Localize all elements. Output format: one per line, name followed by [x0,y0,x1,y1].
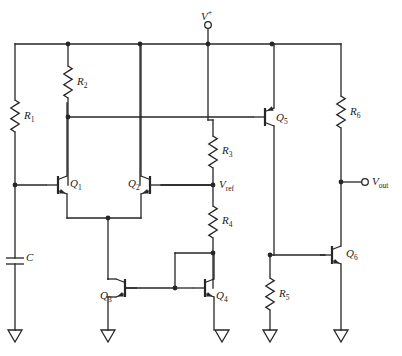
ground-symbol-r5 [263,330,277,342]
node-label-vref: Vref [219,179,234,193]
resistor-label-r5: R5 [279,288,289,302]
supply-terminal [205,22,212,29]
junction-dot [339,180,344,185]
capacitor-label-c: C [26,252,33,263]
junction-dot [206,42,211,47]
resistor-label-r1: R1 [24,110,34,124]
transistor-label-q2: Q2 [128,178,140,192]
resistor-r2 [64,66,72,98]
resistor-label-r4: R4 [222,215,232,229]
resistor-r1 [11,100,19,132]
terminal-label-vout: Vout [372,176,388,190]
q4-arrow [206,292,213,297]
circuit-diagram: R1R2R3R4R5R6CQ1Q2Q3Q4Q5Q6VrefV+Vout [0,0,402,356]
q6-collector-slant [332,246,341,250]
resistor-label-r6: R6 [350,106,360,120]
junction-dot [211,183,216,188]
transistor-label-q1: Q1 [70,178,82,192]
transistor-label-q4: Q4 [216,290,228,304]
q2-collector-slant [141,176,150,180]
ground-symbol-q3 [101,330,115,342]
junction-dot [138,42,143,47]
q6-arrow [333,259,340,264]
q3-collector-slant [116,279,125,283]
resistor-r5 [266,278,274,310]
component-group [6,22,368,342]
resistor-r4 [209,206,217,238]
resistor-label-r2: R2 [77,76,87,90]
terminal-label-vplus: V+ [201,9,212,22]
junction-dot [173,286,178,291]
resistor-label-r3: R3 [222,145,232,159]
q5-collector-slant [265,123,274,127]
q1-collector-slant [58,176,67,180]
resistor-r6 [337,96,345,128]
wire-group [15,29,361,330]
junction-dot [66,42,71,47]
schematic-canvas [0,0,402,356]
ground-symbol-c [8,330,22,342]
ground-symbol-q4 [215,330,229,342]
junction-dot [106,216,111,221]
q1-arrow [59,189,66,194]
junction-dot [13,183,18,188]
transistor-label-q5: Q5 [276,112,288,126]
junction-dot [268,253,273,258]
q3-arrow [117,292,124,297]
q5-arrow [267,106,274,111]
q2-arrow [142,189,149,194]
output-terminal [362,179,369,186]
junction-dot [66,115,71,120]
transistor-label-q3: Q3 [100,290,112,304]
ground-symbol-q6 [334,330,348,342]
junction-dot [270,42,275,47]
resistor-r3 [209,136,217,168]
junction-dot [211,251,216,256]
transistor-label-q6: Q6 [346,248,358,262]
